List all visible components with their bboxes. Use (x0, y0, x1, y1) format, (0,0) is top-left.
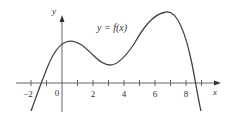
tick-label-2: 2 (91, 89, 96, 99)
x-axis-label: x (212, 87, 217, 97)
y-axis-label: y (51, 6, 56, 16)
tick-label-6: 6 (153, 89, 158, 99)
y-axis (60, 15, 65, 112)
x-axis (16, 80, 221, 86)
tick-label-0: 0 (55, 88, 60, 98)
tick-label-4: 4 (122, 89, 127, 99)
x-tick-labels: −2 0 2 4 6 8 (23, 88, 189, 99)
tick-label-neg2: −2 (23, 89, 33, 99)
function-label: y = f(x) (96, 22, 128, 34)
tick-label-8: 8 (184, 89, 189, 99)
y-axis-arrow-icon (60, 15, 65, 22)
x-axis-arrow-icon (214, 81, 221, 86)
function-graph: y x y = f(x) −2 0 2 4 6 8 (0, 0, 227, 120)
